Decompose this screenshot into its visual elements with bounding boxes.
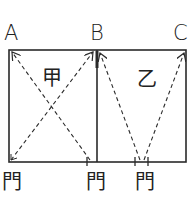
door-label-1: 門 — [2, 172, 22, 192]
room-label-yi: 乙 — [137, 69, 157, 89]
door-label-3: 門 — [135, 172, 155, 192]
room-label-jia: 甲 — [42, 68, 62, 88]
sightline-door3-to-B — [100, 53, 140, 160]
point-label-b: B — [90, 23, 104, 44]
door-label-2: 門 — [86, 172, 106, 192]
point-label-a: A — [4, 23, 18, 44]
point-label-c: C — [173, 23, 188, 44]
